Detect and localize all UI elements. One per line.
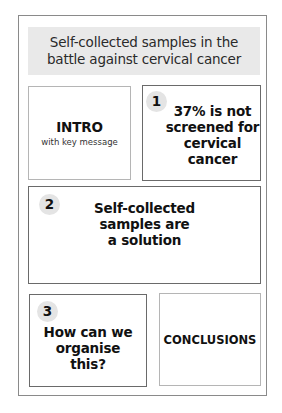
conclusions-box: CONCLUSIONS <box>159 293 261 386</box>
page-title-line-2: battle against cervical cancer <box>47 51 241 68</box>
intro-subtitle: with key message <box>41 137 118 147</box>
section-1-line: screened for <box>166 119 260 135</box>
section-number-badge: 2 <box>39 194 60 215</box>
section-1-line: cervical <box>166 135 260 151</box>
section-2-line: samples are <box>94 216 195 232</box>
section-2-line: Self-collected <box>94 200 195 216</box>
intro-title: INTRO <box>56 119 102 135</box>
page-title: Self-collected samples in the battle aga… <box>47 34 241 68</box>
section-2-box: 2 Self-collected samples are a solution <box>28 186 261 284</box>
page-title-line-1: Self-collected samples in the <box>47 34 241 51</box>
section-1-line: cancer <box>166 151 260 167</box>
section-3-text: How can we organise this? <box>44 324 133 372</box>
section-3-line: this? <box>44 356 133 372</box>
intro-box: INTRO with key message <box>28 86 131 180</box>
section-3-line: How can we <box>44 324 133 340</box>
section-2-line: a solution <box>94 232 195 248</box>
section-3-line: organise <box>44 340 133 356</box>
section-number-badge: 1 <box>146 91 167 112</box>
section-2-text: Self-collected samples are a solution <box>94 200 195 248</box>
section-1-text: 37% is not screened for cervical cancer <box>166 103 260 167</box>
section-3-box: 3 How can we organise this? <box>29 294 147 387</box>
section-number-badge: 3 <box>37 301 58 322</box>
page-title-banner: Self-collected samples in the battle aga… <box>28 27 260 75</box>
conclusions-title: CONCLUSIONS <box>164 332 257 348</box>
section-1-line: 37% is not <box>166 103 260 119</box>
section-1-box: 1 37% is not screened for cervical cance… <box>142 85 261 181</box>
